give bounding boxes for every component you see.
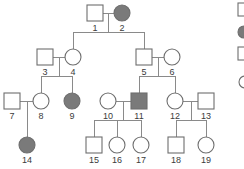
- individual-12-label: 12: [170, 111, 180, 121]
- individual-18[interactable]: 18: [168, 137, 184, 165]
- sibship-line-15-16-17: [94, 120, 141, 137]
- individual-6-label: 6: [169, 67, 174, 77]
- individual-10[interactable]: 10: [100, 93, 116, 121]
- mating-line-3-4: [53, 57, 65, 76]
- individual-8[interactable]: 8: [33, 93, 49, 121]
- individual-16-label: 16: [112, 155, 122, 165]
- individual-12[interactable]: 12: [167, 93, 183, 121]
- individual-13-label: 13: [201, 111, 211, 121]
- individual-3-label: 3: [42, 67, 47, 77]
- individual-17[interactable]: 17: [133, 137, 149, 165]
- legend-square-partial-icon: [238, 3, 244, 16]
- individual-19-label: 19: [201, 155, 211, 165]
- individual-2[interactable]: 2: [114, 5, 130, 33]
- mating-line-7-8: [20, 101, 33, 120]
- individual-9-label: 9: [69, 111, 74, 121]
- individual-15[interactable]: 15: [86, 137, 102, 165]
- individual-16[interactable]: 16: [109, 137, 125, 165]
- individual-3[interactable]: 3: [37, 49, 53, 77]
- individual-18-label: 18: [171, 155, 181, 165]
- individual-5[interactable]: 5: [136, 49, 152, 77]
- individual-15-label: 15: [89, 155, 99, 165]
- legend-circle-partial-icon: [239, 76, 244, 88]
- sibship-line-8-9: [41, 76, 72, 93]
- individual-14-label: 14: [22, 155, 32, 165]
- individual-19[interactable]: 19: [198, 137, 214, 165]
- mating-line-1-2: [103, 13, 114, 32]
- individual-8-label: 8: [38, 111, 43, 121]
- sibship-line-gen2: [73, 32, 144, 49]
- sibship-line-11-12: [139, 76, 175, 93]
- individual-5-label: 5: [141, 67, 146, 77]
- individual-2-label: 2: [119, 23, 124, 33]
- individual-1[interactable]: 1: [87, 5, 103, 33]
- individual-13[interactable]: 13: [198, 93, 214, 121]
- individual-17-label: 17: [136, 155, 146, 165]
- individual-10-label: 10: [103, 111, 113, 121]
- individual-11-label: 11: [134, 111, 143, 121]
- pedigree-chart-figure: 1 2 3 4 5 6 7 8: [0, 0, 244, 169]
- individual-14[interactable]: 14: [19, 137, 35, 165]
- individual-4[interactable]: 4: [65, 49, 81, 77]
- legend-square-partial-2-icon: [238, 47, 244, 60]
- individual-1-label: 1: [92, 23, 97, 33]
- individual-4-label: 4: [70, 67, 75, 77]
- legend-fragments: [238, 3, 244, 88]
- legend-circle-filled-partial-icon: [238, 26, 244, 38]
- pedigree-canvas: 1 2 3 4 5 6 7 8: [0, 0, 244, 169]
- mating-line-10-11: [116, 101, 131, 120]
- individual-9[interactable]: 9: [64, 93, 80, 121]
- sibship-line-18-19: [176, 120, 206, 137]
- mating-line-12-13: [183, 101, 198, 120]
- mating-line-5-6: [152, 57, 164, 76]
- individual-11[interactable]: 11: [131, 93, 147, 121]
- individual-7-label: 7: [9, 111, 14, 121]
- individual-6[interactable]: 6: [164, 49, 180, 77]
- individual-7[interactable]: 7: [4, 93, 20, 121]
